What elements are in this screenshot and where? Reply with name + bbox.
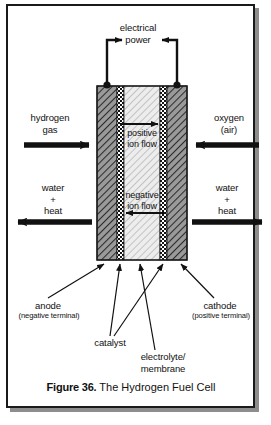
negative-ion-flow-label: negative ion flow (110, 190, 174, 212)
cathode-terminal-dot (173, 81, 180, 88)
figure-caption-text: The Hydrogen Fuel Cell (96, 381, 215, 393)
cell-body (97, 86, 187, 260)
anode-sublabel: (negative terminal) (4, 311, 94, 321)
catalyst-label: catalyst (80, 337, 140, 349)
electrolyte-membrane-label: electrolyte/ membrane (124, 351, 202, 374)
figure-container: electrical power hydrogen gas oxygen (ai… (0, 0, 271, 425)
electrolyte-membrane-layer (124, 86, 160, 260)
oxygen-air-label: oxygen (air) (196, 112, 262, 135)
hydrogen-gas-label: hydrogen gas (14, 112, 86, 135)
figure-caption: Figure 36. The Hydrogen Fuel Cell (12, 381, 250, 393)
anode-label: anode (12, 300, 84, 312)
anode-electrode-layer (97, 86, 117, 260)
water-heat-left-label: water + heat (24, 182, 82, 217)
cathode-label: cathode (184, 300, 256, 312)
cathode-electrode-layer (167, 86, 187, 260)
electrical-power-label: electrical power (102, 22, 174, 45)
positive-ion-flow-label: positive ion flow (110, 128, 174, 150)
water-heat-right-label: water + heat (198, 182, 256, 217)
cathode-sublabel: (positive terminal) (176, 311, 266, 321)
anode-catalyst-layer (117, 86, 124, 260)
figure-number: Figure 36. (47, 381, 97, 393)
anode-terminal-dot (103, 81, 110, 88)
cathode-catalyst-layer (160, 86, 167, 260)
